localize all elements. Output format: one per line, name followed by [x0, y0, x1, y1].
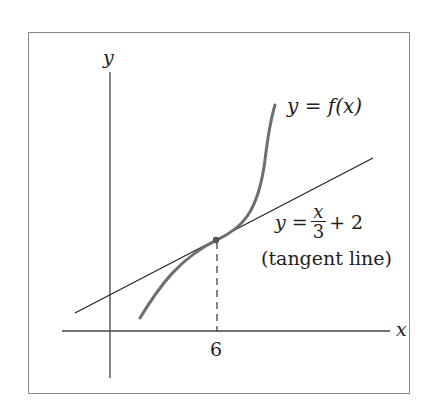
- curve-label: y = f(x): [287, 96, 362, 116]
- x-axis-label: x: [396, 320, 407, 339]
- tick-label-6: 6: [210, 340, 222, 359]
- tangent-eq-rhs: + 2: [329, 213, 363, 232]
- tangent-point-dot: [213, 237, 219, 243]
- tangent-caption: (tangent line): [261, 249, 392, 268]
- fraction-denominator: 3: [311, 221, 326, 241]
- tangent-equation: y = x 3 + 2: [275, 203, 363, 241]
- y-axis-label: y: [103, 48, 114, 67]
- fraction-numerator: x: [311, 203, 325, 221]
- tangent-eq-lhs: y =: [275, 213, 308, 232]
- function-curve: [140, 105, 275, 318]
- tangent-eq-fraction: x 3: [311, 203, 326, 241]
